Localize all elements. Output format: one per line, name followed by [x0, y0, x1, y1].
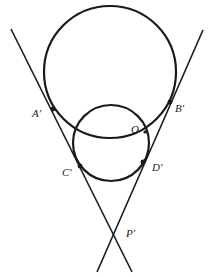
- left-tangent-line: [11, 29, 132, 272]
- label-c-prime: C′: [62, 166, 72, 178]
- label-b-prime: B′: [175, 102, 185, 114]
- label-a-prime: A′: [31, 107, 42, 119]
- small-circle: [73, 105, 149, 181]
- label-o: O: [131, 123, 139, 135]
- point-b-prime: [168, 100, 173, 105]
- points: [51, 100, 173, 169]
- large-circle: [44, 6, 176, 138]
- circles: [44, 6, 176, 181]
- point-o: [143, 130, 146, 133]
- geometry-diagram: A′ B′ C′ D′ O P′: [0, 0, 212, 277]
- label-d-prime: D′: [151, 161, 163, 173]
- point-c-prime: [78, 164, 83, 169]
- label-p-prime: P′: [125, 227, 136, 239]
- point-d-prime: [141, 160, 146, 165]
- point-a-prime: [51, 107, 56, 112]
- right-tangent-line: [97, 30, 203, 272]
- lines: [11, 29, 203, 272]
